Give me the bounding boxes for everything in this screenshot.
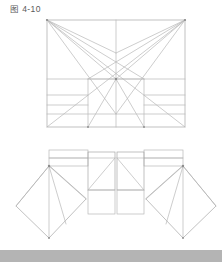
node-center-vanishing	[115, 78, 117, 80]
right-fan-rib-3	[146, 166, 183, 199]
ray-topright-to-center	[116, 20, 185, 79]
node-top-right	[184, 19, 186, 21]
right-fan-pivot-node	[182, 165, 184, 167]
right-fan-rib-2	[166, 166, 183, 224]
left-fan-outline	[16, 166, 86, 238]
ray-center-to-bottom-left-panel	[88, 79, 116, 127]
right-fan-outline	[146, 166, 216, 238]
left-fan-rib-2	[49, 166, 66, 224]
figure-page: 图 4-10	[0, 0, 222, 262]
left-center-panel-foot	[88, 190, 115, 214]
left-fan-rib-4	[16, 166, 49, 206]
right-center-panel-foot	[117, 190, 144, 214]
upper-view-group	[46, 19, 186, 128]
ray-topright-to-upper-mid	[116, 20, 185, 53]
right-fan-rib-4	[183, 166, 216, 206]
right-top-strip-upper	[144, 150, 183, 158]
lower-view-group	[16, 150, 216, 239]
page-bottom-bar	[0, 250, 222, 262]
right-fan-bottom-node	[182, 237, 184, 239]
ray-topright-to-midpanel	[88, 20, 185, 79]
ray-topleft-to-midpanel	[47, 20, 144, 79]
left-fan-bottom-node	[48, 237, 50, 239]
technical-drawing	[0, 0, 222, 262]
right-top-strip-lower	[144, 158, 183, 166]
left-top-strip-lower	[49, 158, 88, 166]
left-center-panel-diagonal	[88, 158, 115, 190]
ray-topleft-to-upper-mid	[47, 20, 116, 53]
node-bottom-left-panel	[87, 126, 89, 128]
node-top-left	[46, 19, 48, 21]
left-top-strip-upper	[49, 150, 88, 158]
node-bottom-right-panel	[143, 126, 145, 128]
left-fan-rib-3	[49, 166, 86, 199]
left-fan-pivot-node	[48, 165, 50, 167]
ray-topleft-to-center	[47, 20, 116, 79]
right-center-panel-diagonal	[117, 158, 144, 190]
ray-center-to-bottom-right-panel	[116, 79, 144, 127]
